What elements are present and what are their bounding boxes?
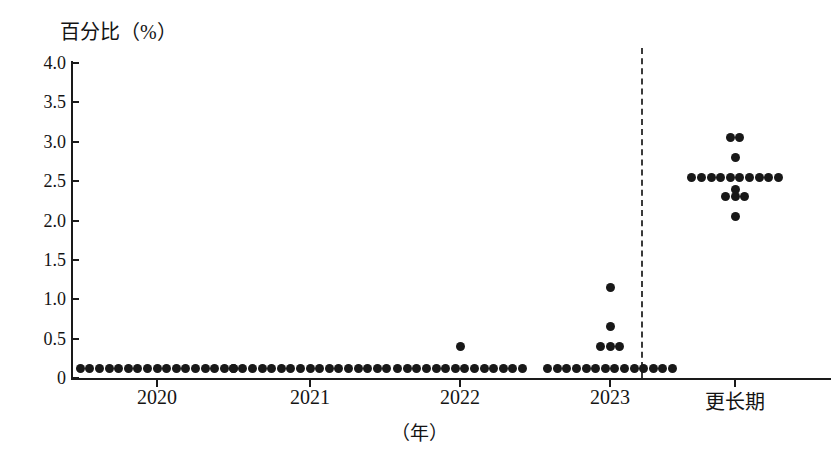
data-dot (393, 364, 402, 373)
data-dot (354, 364, 363, 373)
y-tick-label: 4.0 (26, 54, 66, 72)
data-dot (229, 364, 238, 373)
x-tick-label: 2020 (97, 386, 217, 409)
data-dot (499, 364, 508, 373)
data-dot (238, 364, 247, 373)
data-dot (344, 364, 353, 373)
data-dot (258, 364, 267, 373)
data-dot (133, 364, 142, 373)
data-dot (306, 364, 315, 373)
x-axis-line (71, 378, 831, 380)
data-dot (143, 364, 152, 373)
data-dot (456, 342, 465, 351)
data-dot (658, 364, 667, 373)
data-dot (210, 364, 219, 373)
data-dot (562, 364, 571, 373)
data-dot (422, 364, 431, 373)
data-dot (325, 364, 334, 373)
data-dot (286, 364, 295, 373)
data-dot (572, 364, 581, 373)
y-tick-label: 1.0 (26, 290, 66, 308)
data-dot (731, 153, 740, 162)
y-tick-label: 0.5 (26, 330, 66, 348)
data-dot (95, 364, 104, 373)
dot-plot-chart: 百分比（%） 00.51.01.52.02.53.03.54.0 2020202… (0, 0, 839, 457)
data-dot (697, 173, 706, 182)
data-dot (755, 173, 764, 182)
data-dot (731, 212, 740, 221)
data-dot (649, 364, 658, 373)
data-dot (639, 364, 648, 373)
data-dot (687, 173, 696, 182)
data-dot (162, 364, 171, 373)
y-tick-label: 2.5 (26, 172, 66, 190)
data-dot (745, 173, 754, 182)
data-dot (153, 364, 162, 373)
data-dot (630, 364, 639, 373)
x-tick-label: 2021 (250, 386, 370, 409)
data-dot (124, 364, 133, 373)
data-dot (412, 364, 421, 373)
data-dot (248, 364, 257, 373)
x-tick-label: 2023 (550, 386, 670, 409)
data-dot (480, 364, 489, 373)
data-dot (553, 364, 562, 373)
data-dot (114, 364, 123, 373)
data-dot (774, 173, 783, 182)
x-axis-unit-label: （年） (0, 418, 839, 445)
data-dot (441, 364, 450, 373)
data-dot (296, 364, 305, 373)
x-tick-label: 2022 (400, 386, 520, 409)
data-dot (606, 342, 615, 351)
data-dot (726, 133, 735, 142)
data-dot (731, 192, 740, 201)
data-dot (470, 364, 479, 373)
data-dot (85, 364, 94, 373)
data-dot (315, 364, 324, 373)
data-dot (610, 364, 619, 373)
data-dot (518, 364, 527, 373)
y-axis-title: 百分比（%） (60, 16, 177, 45)
data-dot (606, 283, 615, 292)
data-dot (451, 364, 460, 373)
plot-area (71, 63, 831, 378)
data-dot (105, 364, 114, 373)
y-tick-label: 3.0 (26, 133, 66, 151)
data-dot (620, 364, 629, 373)
data-dot (606, 322, 615, 331)
data-dot (601, 364, 610, 373)
data-dot (489, 364, 498, 373)
data-dot (460, 364, 469, 373)
y-tick-label: 3.5 (26, 93, 66, 111)
data-dot (731, 185, 740, 194)
data-dot (591, 364, 600, 373)
data-dot (508, 364, 517, 373)
data-dot (373, 364, 382, 373)
data-dot (201, 364, 210, 373)
data-dot (382, 364, 391, 373)
data-dot (668, 364, 677, 373)
data-dot (76, 364, 85, 373)
data-dot (277, 364, 286, 373)
data-dot (543, 364, 552, 373)
y-tick-label: 2.0 (26, 212, 66, 230)
y-tick-label: 0 (26, 369, 66, 387)
data-dot (735, 173, 744, 182)
x-tick-label: 更长期 (675, 386, 795, 415)
data-dot (403, 364, 412, 373)
y-tick-label: 1.5 (26, 251, 66, 269)
data-dot (267, 364, 276, 373)
data-dot (172, 364, 181, 373)
data-dot (334, 364, 343, 373)
data-dot (726, 173, 735, 182)
data-dot (596, 342, 605, 351)
data-dot (582, 364, 591, 373)
data-dot (363, 364, 372, 373)
data-dot (220, 364, 229, 373)
data-dot (764, 173, 773, 182)
data-dot (432, 364, 441, 373)
data-dot (181, 364, 190, 373)
data-dot (191, 364, 200, 373)
data-dot (707, 173, 716, 182)
data-dot (716, 173, 725, 182)
